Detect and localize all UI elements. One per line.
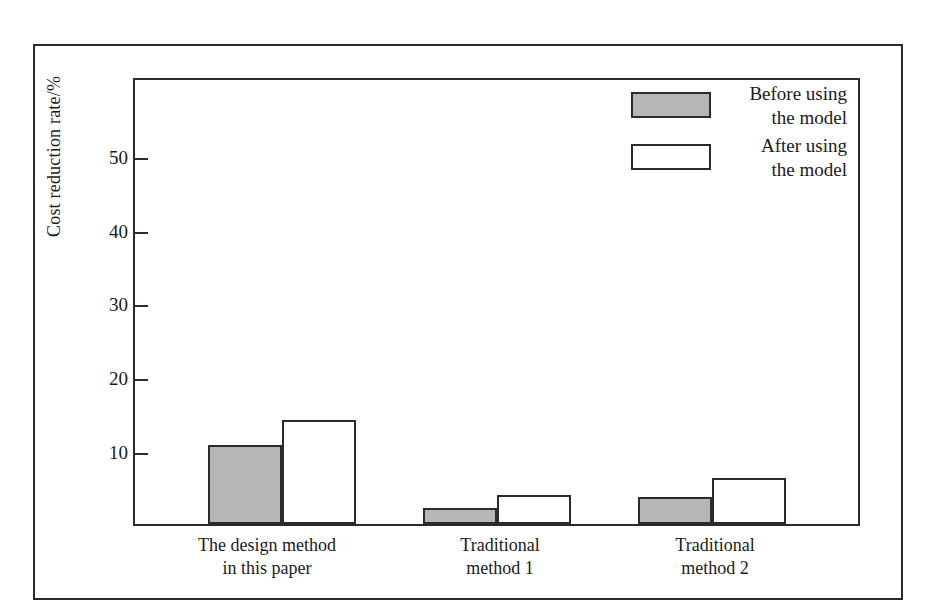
legend-label-before: Before using the model [715, 82, 847, 130]
gray-swatch-icon [631, 92, 711, 118]
y-tick-mark-10 [135, 453, 148, 455]
bar-chart-figure: Cost reduction rate/% 50 40 30 20 10 [0, 0, 935, 615]
y-tick-mark-40 [135, 232, 148, 234]
white-swatch-icon [631, 144, 711, 170]
x-category-label-2: Traditional method 1 [405, 534, 595, 580]
legend: Before using the model After using the m… [631, 86, 847, 190]
plot-area: Before using the model After using the m… [133, 78, 860, 526]
bar-before-the-design-method-in-this-paper[interactable] [208, 445, 282, 524]
y-tick-mark-20 [135, 379, 148, 381]
plot-inner: Before using the model After using the m… [135, 80, 858, 524]
y-tick-mark-50 [135, 158, 148, 160]
bar-before-traditional-method-1[interactable] [423, 508, 497, 524]
y-tick-label-10: 10 [68, 443, 128, 462]
legend-entry-after[interactable]: After using the model [631, 138, 847, 190]
y-tick-label-30: 30 [68, 295, 128, 314]
bar-before-traditional-method-2[interactable] [638, 497, 712, 524]
bar-after-traditional-method-1[interactable] [497, 495, 571, 524]
y-axis-title: Cost reduction rate/% [44, 76, 65, 237]
bar-after-the-design-method-in-this-paper[interactable] [282, 420, 356, 524]
y-tick-label-50: 50 [68, 148, 128, 167]
bar-after-traditional-method-2[interactable] [712, 478, 786, 524]
y-tick-mark-30 [135, 305, 148, 307]
legend-entry-before[interactable]: Before using the model [631, 86, 847, 138]
x-category-label-3: Traditional method 2 [620, 534, 810, 580]
x-category-label-1: The design method in this paper [172, 534, 362, 580]
legend-label-after: After using the model [715, 134, 847, 182]
y-tick-label-20: 20 [68, 369, 128, 388]
y-tick-label-40: 40 [68, 222, 128, 241]
